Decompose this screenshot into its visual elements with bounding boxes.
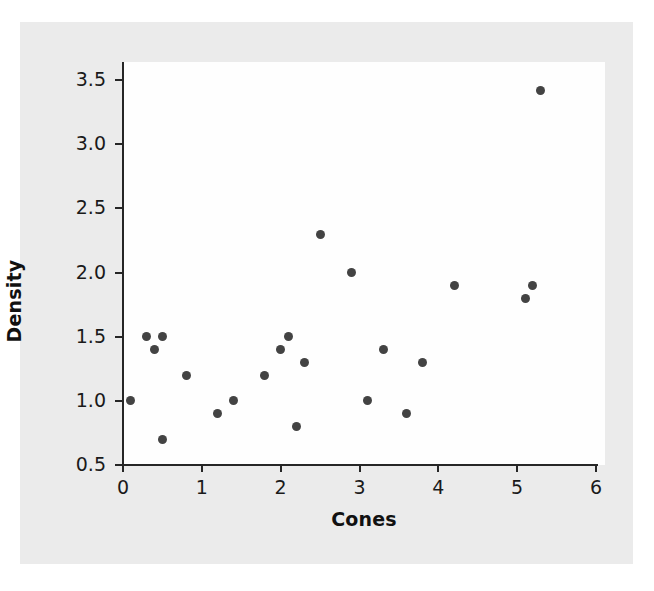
y-axis-tick-label: 3.0 [50,134,106,153]
y-axis-title: Density [3,231,25,371]
y-axis-tick [115,207,123,209]
y-axis-tick [115,79,123,81]
data-point [521,294,530,303]
y-axis-tick-label: 3.5 [50,70,106,89]
x-axis-tick [595,464,597,472]
x-axis-tick-label: 2 [261,478,301,497]
data-point [316,230,325,239]
x-axis-tick [280,464,282,472]
data-point [450,281,459,290]
x-axis-tick [516,464,518,472]
y-axis-tick-label: 0.5 [50,455,106,474]
y-axis-tick [115,143,123,145]
y-axis-tick [115,400,123,402]
y-axis-tick-label: 1.5 [50,327,106,346]
x-axis-tick [201,464,203,472]
y-axis-tick-label: 2.5 [50,198,106,217]
data-point [379,345,388,354]
data-point [150,345,159,354]
data-point [300,358,309,367]
x-axis-tick-label: 3 [340,478,380,497]
plot-canvas [123,62,605,465]
y-axis-tick [115,336,123,338]
x-axis-tick-label: 6 [576,478,616,497]
data-point [182,371,191,380]
x-axis-tick-label: 4 [418,478,458,497]
x-axis-tick-label: 0 [103,478,143,497]
y-axis-tick-label: 2.0 [50,263,106,282]
x-axis-tick [122,464,124,472]
scatter-plot-figure: 0.51.01.52.02.53.03.5 0123456 Density Co… [0,0,654,591]
data-point [292,422,301,431]
data-point [158,435,167,444]
y-axis-tick-label: 1.0 [50,391,106,410]
data-point [418,358,427,367]
x-axis-tick [437,464,439,472]
data-point [158,332,167,341]
y-axis-tick [115,272,123,274]
x-axis-tick [359,464,361,472]
x-axis-tick-label: 1 [182,478,222,497]
y-axis-line [122,62,124,467]
x-axis-title: Cones [123,508,605,530]
x-axis-tick-label: 5 [497,478,537,497]
